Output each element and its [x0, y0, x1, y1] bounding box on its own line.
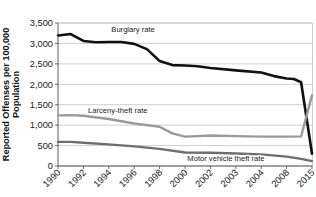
- chart-container: 05001,0001,5002,0002,5003,0003,500 19901…: [0, 0, 316, 197]
- series-label-1: Burglary rate: [111, 25, 154, 34]
- y-tick-label: 2,500: [30, 59, 53, 69]
- y-tick-label: 1,000: [30, 120, 53, 130]
- y-tick-label: 3,000: [30, 39, 53, 49]
- y-tick-label: 3,500: [30, 18, 53, 28]
- y-axis-title-line2: Population: [11, 71, 21, 118]
- y-tick-label: 500: [37, 141, 53, 151]
- y-axis-title-line1: Reported Offenses per 100,000: [1, 28, 11, 161]
- series-label-3: Motor vehicle theft rate: [187, 154, 264, 163]
- y-tick-label: 2,000: [30, 80, 53, 90]
- series-label-2: Larceny-theft rate: [88, 106, 148, 115]
- y-tick-label: 1,500: [30, 100, 53, 110]
- line-chart: 05001,0001,5002,0002,5003,0003,500 19901…: [0, 0, 316, 197]
